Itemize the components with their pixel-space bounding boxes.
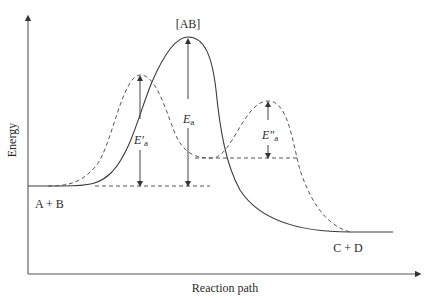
transition-state-label: [AB] — [176, 17, 201, 31]
reactants-label: A + B — [35, 197, 64, 211]
uncatalysed-curve — [28, 37, 393, 232]
y-axis-label: Energy — [5, 123, 19, 157]
energy-diagram: [AB] E′a Ea E″a A + B C + D Reaction pat… — [0, 0, 430, 303]
catalysed-curve — [48, 75, 350, 232]
ea-first-step-label: E′a — [133, 133, 148, 148]
ea-second-step-label: E″a — [261, 128, 278, 143]
products-label: C + D — [333, 241, 363, 255]
x-axis-label: Reaction path — [192, 281, 258, 295]
ea-uncatalysed-label: Ea — [182, 112, 194, 127]
